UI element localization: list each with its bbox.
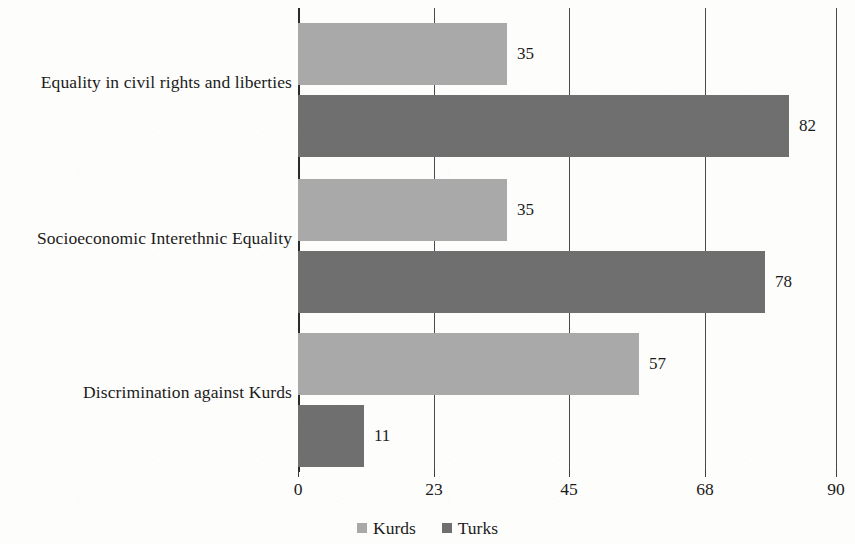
x-axis-tick-label-23: 23	[425, 479, 443, 500]
x-axis-tick-label-45: 45	[560, 479, 578, 500]
value-label-kurds-equality-civil-rights: 35	[517, 44, 534, 64]
tick-mark-45	[569, 470, 570, 477]
bar-turks-socioeconomic-equality	[298, 251, 765, 313]
value-label-turks-discrimination: 11	[374, 426, 390, 446]
x-axis-tick-label-68: 68	[696, 479, 714, 500]
tick-mark-90	[836, 470, 837, 477]
gridline-68	[705, 8, 706, 470]
chart-legend: Kurds Turks	[0, 518, 855, 539]
category-label-socioeconomic-equality: Socioeconomic Interethnic Equality	[2, 228, 292, 249]
bar-kurds-discrimination	[298, 333, 639, 395]
gridline-90	[836, 8, 837, 470]
tick-mark-0	[298, 470, 299, 477]
bar-kurds-socioeconomic-equality	[298, 179, 507, 241]
value-label-kurds-socioeconomic-equality: 35	[517, 200, 534, 220]
bar-turks-discrimination	[298, 405, 364, 467]
value-label-kurds-discrimination: 57	[649, 354, 666, 374]
tick-mark-68	[705, 470, 706, 477]
gridline-45	[569, 8, 570, 470]
value-label-turks-socioeconomic-equality: 78	[775, 272, 792, 292]
value-label-turks-equality-civil-rights: 82	[799, 116, 816, 136]
legend-item-kurds: Kurds	[357, 518, 416, 539]
category-label-equality-civil-rights: Equality in civil rights and liberties	[2, 72, 292, 93]
bar-chart: Equality in civil rights and liberties S…	[0, 0, 855, 544]
bar-kurds-equality-civil-rights	[298, 23, 507, 85]
legend-swatch-turks-icon	[442, 523, 452, 533]
tick-mark-23	[434, 470, 435, 477]
legend-label-turks: Turks	[458, 518, 498, 539]
legend-label-kurds: Kurds	[373, 518, 416, 539]
category-label-discrimination-kurds: Discrimination against Kurds	[2, 382, 292, 403]
bar-turks-equality-civil-rights	[298, 95, 789, 157]
x-axis-tick-label-90: 90	[827, 479, 845, 500]
plot-area: 35 82 35 78 57 11	[298, 8, 837, 470]
legend-item-turks: Turks	[442, 518, 498, 539]
x-axis-tick-label-0: 0	[294, 479, 303, 500]
legend-swatch-kurds-icon	[357, 523, 367, 533]
